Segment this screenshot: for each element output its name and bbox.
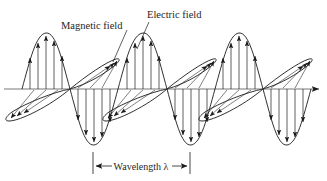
- wavelength-annotation: Wavelength λ: [93, 152, 190, 174]
- wavelength-label: Wavelength λ: [114, 161, 169, 172]
- electric-field-label: Electric field: [147, 9, 202, 20]
- magnetic-lobe-3: [103, 89, 167, 121]
- magnetic-lobe-1: [6, 89, 70, 121]
- magnetic-lobe-2: [70, 59, 119, 89]
- em-wave-svg: Electric field Magnetic field Wavelength…: [0, 0, 327, 181]
- magnetic-lobe-5: [199, 89, 263, 121]
- magnetic-lobe-4: [167, 59, 216, 89]
- magnetic-lobe-6: [263, 59, 312, 89]
- em-wave-figure: Electric field Magnetic field Wavelength…: [0, 0, 327, 181]
- magnetic-field-leader: [113, 30, 127, 62]
- magnetic-field-label: Magnetic field: [61, 20, 123, 31]
